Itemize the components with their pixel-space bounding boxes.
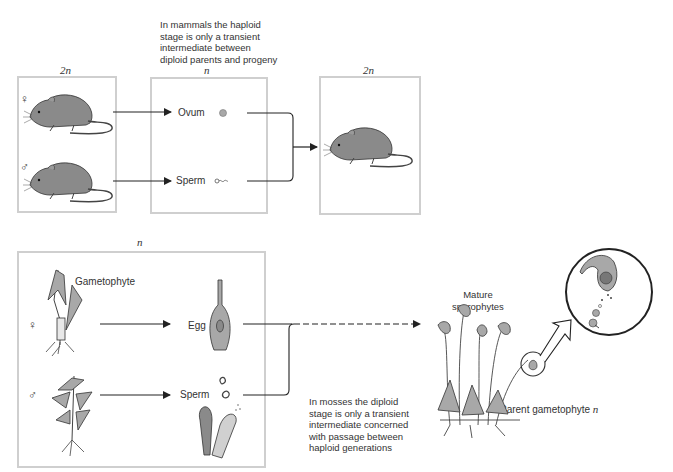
progeny-mouse-icon [323, 128, 412, 167]
antheridia-sperm-icon [199, 377, 240, 458]
male-mouse-icon [23, 163, 112, 202]
archegonium-egg-icon [210, 280, 230, 350]
mature-sporophytes-icon [438, 305, 528, 438]
female-mouse-icon [23, 95, 112, 134]
male-gametophyte-icon [52, 376, 92, 456]
magnify-arrow-icon [540, 320, 571, 362]
sperm-icon [215, 179, 228, 183]
ovum-icon [220, 110, 227, 117]
diagram-graphics [0, 0, 673, 472]
female-gametophyte-icon [46, 270, 82, 356]
